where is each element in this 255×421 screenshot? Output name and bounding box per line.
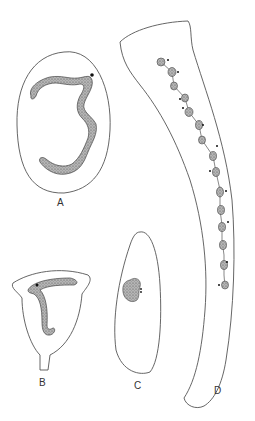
panel-a-label: A [57,198,64,208]
panel-c-label: C [134,381,141,391]
panel-b-cell [12,271,90,370]
panel-d-cell [120,21,234,408]
panel-a-nucleus [30,76,96,174]
panel-d-macronucleus-chain [157,58,229,289]
panel-c-nucleus [123,278,141,301]
panel-c-cell [115,232,161,374]
panel-b-label: B [39,378,46,388]
panel-a-cell [17,52,110,193]
figure: A B C D [0,0,255,421]
panel-b-micronucleus [36,284,39,287]
panel-b-nucleus [28,278,77,335]
panel-d-label: D [214,386,221,396]
panel-a-micronucleus [90,73,94,77]
